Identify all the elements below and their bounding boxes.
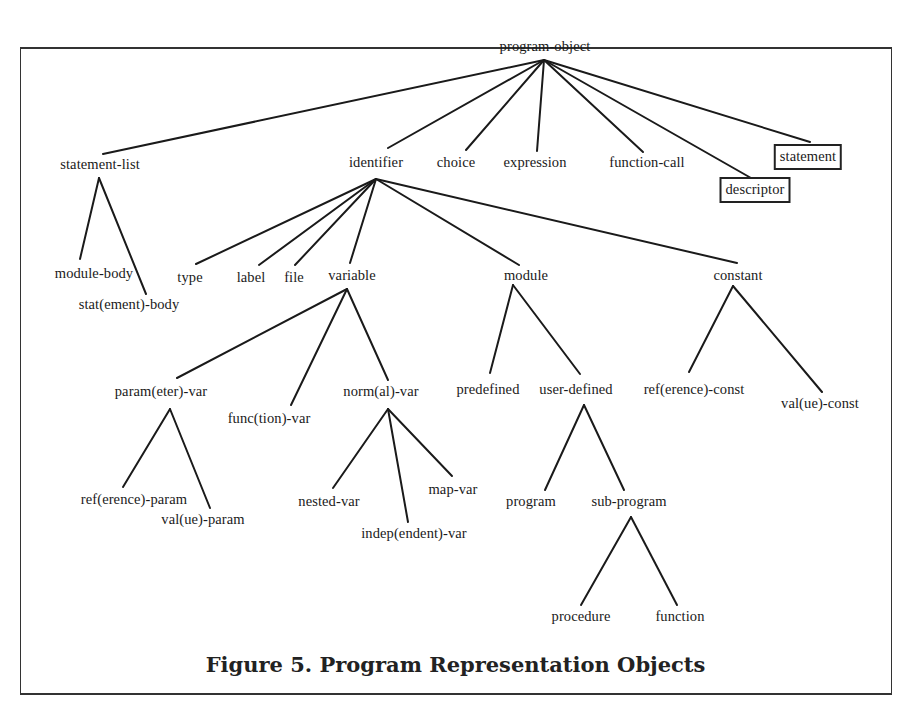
node-statement-body: stat(ement)-body bbox=[79, 297, 180, 312]
edge-sub-program-procedure bbox=[581, 517, 631, 605]
node-sub-program: sub-program bbox=[591, 494, 666, 509]
node-normal-var: norm(al)-var bbox=[343, 384, 418, 399]
node-nested-var: nested-var bbox=[298, 494, 359, 509]
node-function-call: function-call bbox=[609, 155, 684, 170]
node-statement-list: statement-list bbox=[60, 157, 140, 172]
edge-module-predefined bbox=[490, 285, 513, 373]
node-parameter-var: param(eter)-var bbox=[115, 384, 207, 399]
edge-module-user-defined bbox=[513, 285, 580, 374]
figure-caption: Figure 5. Program Representation Objects bbox=[0, 652, 911, 677]
node-choice: choice bbox=[437, 155, 475, 170]
edge-identifier-file bbox=[295, 179, 376, 265]
node-module: module bbox=[504, 268, 548, 283]
edge-program-object-function-call bbox=[544, 60, 643, 152]
edge-program-object-expression bbox=[537, 60, 544, 151]
edge-parameter-var-reference-param bbox=[123, 409, 170, 487]
node-program: program bbox=[506, 494, 556, 509]
node-type: type bbox=[177, 270, 202, 285]
node-identifier: identifier bbox=[349, 155, 403, 170]
edge-program-object-statement-list bbox=[103, 60, 544, 154]
node-statement: statement bbox=[774, 144, 842, 170]
node-file: file bbox=[284, 270, 304, 285]
node-label: label bbox=[237, 270, 266, 285]
edge-constant-reference-const bbox=[689, 286, 733, 372]
node-predefined: predefined bbox=[457, 382, 520, 397]
edge-constant-value-const bbox=[733, 286, 822, 392]
edge-variable-parameter-var bbox=[177, 289, 347, 378]
edge-user-defined-program bbox=[545, 405, 584, 490]
edge-program-object-identifier bbox=[388, 60, 544, 148]
edge-variable-function-var bbox=[291, 289, 347, 405]
node-function: function bbox=[655, 609, 704, 624]
edge-statement-list-module-body bbox=[80, 178, 99, 259]
edge-identifier-module bbox=[376, 179, 519, 265]
node-function-var: func(tion)-var bbox=[228, 411, 311, 426]
edge-identifier-label bbox=[259, 179, 376, 265]
node-independent-var: indep(endent)-var bbox=[361, 526, 467, 541]
node-constant: constant bbox=[713, 268, 762, 283]
node-program-object: program-object bbox=[500, 39, 591, 54]
edge-normal-var-nested-var bbox=[333, 409, 388, 488]
edge-identifier-type bbox=[196, 179, 376, 264]
node-module-body: module-body bbox=[55, 266, 133, 281]
edge-sub-program-function bbox=[631, 517, 677, 605]
node-map-var: map-var bbox=[428, 482, 477, 497]
node-reference-param: ref(erence)-param bbox=[81, 492, 187, 507]
node-value-const: val(ue)-const bbox=[781, 396, 859, 411]
edge-variable-normal-var bbox=[347, 289, 388, 380]
edge-identifier-constant bbox=[376, 179, 737, 263]
node-variable: variable bbox=[328, 268, 376, 283]
edge-user-defined-sub-program bbox=[584, 405, 624, 490]
node-expression: expression bbox=[503, 155, 566, 170]
node-reference-const: ref(erence)-const bbox=[644, 382, 745, 397]
node-descriptor: descriptor bbox=[720, 177, 791, 203]
edge-program-object-statement bbox=[544, 60, 810, 142]
node-value-param: val(ue)-param bbox=[161, 512, 244, 527]
tree-edges bbox=[0, 0, 911, 712]
node-procedure: procedure bbox=[552, 609, 611, 624]
node-user-defined: user-defined bbox=[539, 382, 612, 397]
